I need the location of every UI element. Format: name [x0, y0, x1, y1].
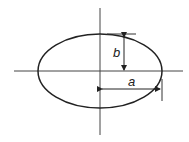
label-b: b — [113, 45, 120, 60]
ellipse-diagram: b a — [0, 0, 189, 142]
label-a: a — [128, 74, 135, 89]
